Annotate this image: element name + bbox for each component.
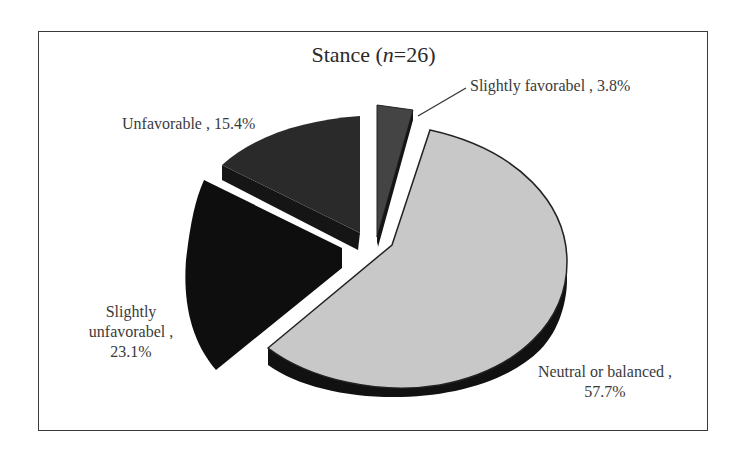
- label-neutral-or-balanced: Neutral or balanced , 57.7%: [520, 362, 690, 402]
- label-line: Neutral or balanced ,: [520, 362, 690, 382]
- label-line: 23.1%: [70, 342, 192, 362]
- label-line: unfavorabel ,: [70, 322, 192, 342]
- label-slightly-favorabel: Slightly favorabel , 3.8%: [470, 76, 630, 96]
- label-line: Slightly: [70, 302, 192, 322]
- label-line: 57.7%: [520, 382, 690, 402]
- label-slightly-unfavorabel: Slightly unfavorabel , 23.1%: [70, 302, 192, 362]
- leader-line: [418, 88, 466, 116]
- label-unfavorable: Unfavorable , 15.4%: [122, 114, 255, 134]
